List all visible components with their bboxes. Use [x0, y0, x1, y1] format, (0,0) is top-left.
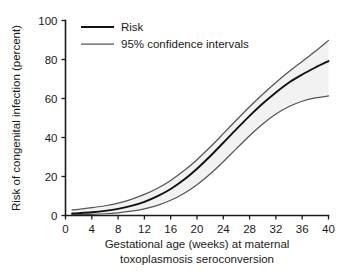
y-axis-ticks: 020406080100	[38, 15, 65, 222]
x-tick-label: 12	[138, 223, 151, 235]
y-tick-label: 80	[45, 54, 58, 66]
lower-confidence-curve	[72, 96, 328, 215]
x-axis-ticks: 0481216202428323640	[62, 216, 335, 235]
y-tick-label: 20	[45, 171, 58, 183]
confidence-interval-band	[72, 40, 328, 215]
legend-label: Risk	[121, 21, 144, 33]
x-tick-label: 0	[62, 223, 68, 235]
y-tick-label: 0	[51, 210, 57, 222]
x-tick-label: 24	[217, 223, 230, 235]
y-axis-title-text: Risk of congenital infection (percent)	[10, 25, 22, 211]
y-tick-label: 100	[38, 15, 57, 27]
x-tick-label: 16	[164, 223, 177, 235]
x-axis-title-line2: toxoplasmosis seroconversion	[120, 253, 274, 265]
x-axis-title: Gestational age (weeks) at maternal toxo…	[105, 238, 290, 265]
x-tick-label: 36	[296, 223, 309, 235]
curve-group	[72, 40, 328, 215]
x-tick-label: 28	[243, 223, 256, 235]
x-tick-label: 20	[191, 223, 204, 235]
ci-band-fill	[72, 40, 328, 215]
y-tick-label: 40	[45, 132, 58, 144]
x-axis-title-line1: Gestational age (weeks) at maternal	[105, 238, 290, 250]
x-tick-label: 8	[115, 223, 121, 235]
risk-of-congenital-infection-chart: 020406080100 0481216202428323640 Risk of…	[0, 0, 350, 277]
y-tick-label: 60	[45, 93, 58, 105]
legend-label: 95% confidence intervals	[121, 38, 249, 50]
chart-legend: Risk95% confidence intervals	[81, 21, 249, 50]
x-tick-label: 40	[322, 223, 335, 235]
upper-confidence-curve	[72, 40, 328, 209]
x-tick-label: 32	[270, 223, 283, 235]
y-axis-title: Risk of congenital infection (percent)	[10, 25, 22, 211]
chart-figure: 020406080100 0481216202428323640 Risk of…	[0, 0, 350, 277]
x-tick-label: 4	[89, 223, 96, 235]
